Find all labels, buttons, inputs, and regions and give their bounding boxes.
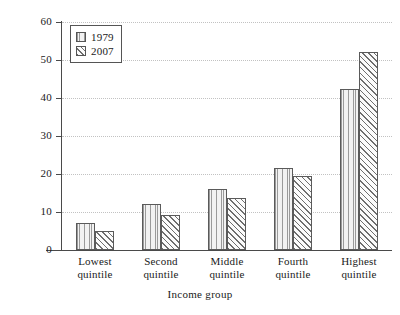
y-tick-mark [56, 212, 61, 213]
x-tick-label: Highestquintile [312, 255, 400, 281]
bar-1979[interactable] [76, 223, 95, 250]
x-axis-title: Income group [0, 288, 400, 300]
y-tick-mark [56, 250, 61, 251]
bar-1979[interactable] [142, 204, 161, 250]
bar-group [274, 22, 312, 250]
y-tick-mark [56, 60, 61, 61]
legend-swatch-2007-icon [76, 46, 86, 56]
y-tick-label: 20 [12, 168, 52, 179]
bar-2007[interactable] [227, 198, 246, 250]
legend-label: 2007 [91, 46, 114, 57]
legend: 1979 2007 [70, 25, 122, 63]
y-tick-mark [56, 136, 61, 137]
legend-item[interactable]: 1979 [76, 30, 114, 44]
bar-1979[interactable] [208, 189, 227, 250]
y-tick-label: 60 [12, 16, 52, 27]
y-tick-label: 40 [12, 92, 52, 103]
y-tick-mark [56, 174, 61, 175]
y-tick-mark [56, 22, 61, 23]
bar-1979[interactable] [274, 168, 293, 250]
bar-2007[interactable] [293, 176, 312, 250]
y-tick-label: 50 [12, 54, 52, 65]
bar-group [208, 22, 246, 250]
bar-1979[interactable] [340, 89, 359, 251]
bar-group [340, 22, 378, 250]
legend-swatch-1979-icon [76, 32, 86, 42]
bar-group [142, 22, 180, 250]
y-tick-label: 0 [12, 244, 52, 255]
bar-2007[interactable] [95, 231, 114, 250]
bar-2007[interactable] [161, 215, 180, 250]
x-axis-line [46, 250, 392, 251]
y-tick-mark [56, 98, 61, 99]
y-tick-label: 10 [12, 206, 52, 217]
bar-2007[interactable] [359, 52, 378, 250]
legend-label: 1979 [91, 32, 114, 43]
legend-item[interactable]: 2007 [76, 44, 114, 58]
bar-chart: Per cent 0102030405060 LowestquintileSec… [0, 0, 400, 315]
y-tick-label: 30 [12, 130, 52, 141]
